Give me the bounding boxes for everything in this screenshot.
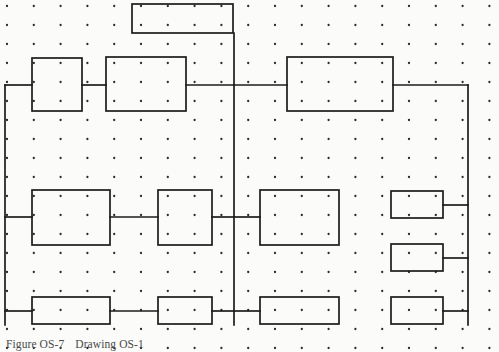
- row2-box-left: [32, 58, 82, 111]
- stack-box-middle: [391, 244, 443, 271]
- row3-box-mid: [158, 190, 212, 245]
- top-header-box: [132, 4, 233, 33]
- row4-box-right: [260, 297, 339, 324]
- stack-box-bottom: [391, 297, 443, 324]
- row4-box-left: [32, 297, 110, 324]
- connector-layer: [5, 33, 468, 325]
- figure-caption-title: Drawing OS-1: [75, 338, 144, 350]
- row3-box-right: [260, 190, 339, 245]
- row2-box-right: [287, 57, 393, 111]
- figure-drawing-os-1: Figure OS-7Drawing OS-1: [0, 0, 499, 352]
- row4-box-mid: [158, 297, 212, 324]
- box-layer: [32, 4, 443, 324]
- row3-box-left: [32, 190, 110, 245]
- schematic-line-art: [0, 0, 499, 352]
- row2-box-mid: [106, 57, 186, 111]
- figure-caption: Figure OS-7Drawing OS-1: [6, 338, 144, 350]
- stack-box-top: [391, 191, 443, 218]
- figure-caption-label: Figure OS-7: [6, 338, 64, 350]
